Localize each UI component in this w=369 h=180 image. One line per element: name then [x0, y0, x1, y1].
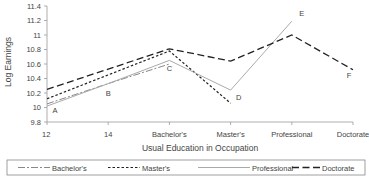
x-tick-label: Professional	[271, 130, 313, 139]
y-tick-label: 9.8	[31, 118, 41, 127]
x-tick-label: 12	[42, 130, 50, 139]
legend: Bachelor'sMaster'sProfessionalDoctorate	[7, 160, 365, 175]
y-tick-label: 11.2	[27, 16, 41, 25]
y-axis-label: Log Earnings	[3, 37, 13, 87]
y-tick-label: 11.4	[27, 2, 41, 11]
annotation-label: A	[52, 106, 57, 115]
point-annotations: ABCDEF	[52, 9, 351, 114]
annotation-label: F	[347, 71, 352, 80]
x-tick-label: Doctorate	[337, 130, 369, 139]
x-tick-label: Bachelor's	[152, 130, 187, 139]
annotation-label: E	[299, 9, 304, 18]
annotation-label: D	[236, 93, 242, 102]
series-lines	[47, 21, 353, 106]
y-tick-label: 10	[33, 103, 41, 112]
x-tick-label: 14	[104, 130, 112, 139]
annotation-label: C	[167, 64, 173, 73]
y-axis: 9.81010.210.410.610.81111.211.4	[26, 2, 47, 127]
x-axis: 1214Bachelor'sMaster'sProfessionalDoctor…	[42, 122, 369, 139]
x-axis-label: Usual Education in Occupation	[142, 143, 259, 153]
line-chart: 9.81010.210.410.610.81111.211.4 1214Bach…	[0, 0, 369, 180]
series-line-doctorate	[47, 35, 353, 89]
y-tick-label: 10.4	[26, 74, 41, 83]
x-tick-label: Master's	[217, 130, 245, 139]
y-tick-label: 10.2	[26, 89, 41, 98]
legend-label: Professional	[252, 164, 294, 173]
legend-label: Doctorate	[322, 164, 355, 173]
annotation-label: B	[106, 89, 111, 98]
y-tick-label: 10.6	[26, 60, 41, 69]
y-tick-label: 10.8	[26, 45, 41, 54]
y-tick-label: 11	[33, 31, 41, 40]
legend-label: Bachelor's	[52, 164, 87, 173]
legend-label: Master's	[142, 164, 170, 173]
